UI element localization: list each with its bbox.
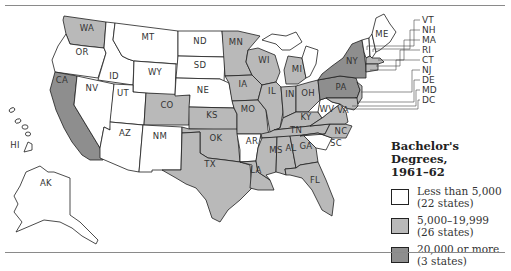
svg-text:KS: KS: [206, 110, 218, 120]
state-NY[interactable]: [318, 40, 366, 80]
svg-text:NY: NY: [346, 56, 359, 66]
svg-text:WV: WV: [320, 104, 335, 114]
svg-text:CA: CA: [56, 75, 68, 85]
svg-text:CO: CO: [160, 100, 173, 110]
svg-text:DC: DC: [422, 95, 435, 105]
svg-text:OH: OH: [301, 88, 315, 98]
svg-text:VT: VT: [422, 15, 434, 25]
svg-text:ME: ME: [375, 29, 388, 39]
svg-text:AL: AL: [285, 143, 296, 153]
svg-text:WI: WI: [258, 55, 270, 65]
svg-text:RI: RI: [422, 45, 431, 55]
svg-text:FL: FL: [310, 175, 320, 185]
svg-text:TX: TX: [203, 159, 216, 169]
svg-text:MO: MO: [241, 104, 256, 114]
svg-text:MA: MA: [422, 35, 437, 45]
legend-title: Bachelor's Degrees, 1961–62: [391, 140, 509, 179]
state-AK[interactable]: [14, 166, 98, 244]
callout-labels: VT NH MA RI CT NJ DE MD DC: [422, 15, 437, 105]
svg-text:MN: MN: [229, 37, 243, 47]
svg-text:AZ: AZ: [119, 128, 131, 138]
svg-text:IA: IA: [239, 79, 248, 89]
svg-text:CT: CT: [422, 55, 434, 65]
svg-text:PA: PA: [336, 82, 347, 92]
svg-text:WY: WY: [148, 67, 163, 77]
svg-text:MD: MD: [422, 85, 437, 95]
svg-text:AR: AR: [246, 136, 258, 146]
svg-text:NM: NM: [153, 131, 167, 141]
bottom-rule: [5, 252, 505, 253]
svg-text:ND: ND: [193, 36, 207, 46]
svg-text:TN: TN: [289, 125, 302, 135]
state-FL[interactable]: [285, 162, 334, 216]
state-CT-RI[interactable]: [366, 64, 378, 72]
svg-text:SC: SC: [330, 138, 342, 148]
svg-text:IN: IN: [285, 89, 294, 99]
svg-text:NJ: NJ: [422, 65, 431, 75]
svg-text:ID: ID: [109, 71, 119, 81]
svg-text:GA: GA: [299, 141, 312, 151]
svg-text:WA: WA: [80, 23, 94, 33]
legend-item-mid: 5,000–19,999 (26 states): [391, 215, 509, 238]
svg-text:SD: SD: [194, 60, 207, 70]
svg-text:IL: IL: [268, 86, 276, 96]
legend-item-low: Less than 5,000 (22 states): [391, 186, 509, 209]
svg-text:VA: VA: [337, 105, 349, 115]
svg-text:MS: MS: [269, 145, 282, 155]
svg-text:DE: DE: [422, 75, 435, 85]
svg-text:KY: KY: [300, 112, 312, 122]
svg-text:OR: OR: [75, 47, 88, 57]
svg-text:HI: HI: [10, 140, 20, 150]
svg-text:UT: UT: [117, 88, 130, 98]
swatch-mid: [391, 218, 409, 234]
swatch-high: [391, 247, 409, 263]
svg-text:MT: MT: [141, 32, 155, 42]
svg-text:AK: AK: [40, 178, 52, 188]
svg-text:NH: NH: [422, 25, 436, 35]
legend-item-high: 20,000 or more (3 states): [391, 244, 509, 267]
svg-text:NV: NV: [86, 83, 99, 93]
svg-text:NC: NC: [335, 126, 348, 136]
svg-text:NE: NE: [197, 85, 209, 95]
svg-text:LA: LA: [250, 165, 261, 175]
swatch-low: [391, 189, 409, 205]
svg-text:OK: OK: [210, 133, 223, 143]
svg-text:MI: MI: [292, 64, 302, 74]
